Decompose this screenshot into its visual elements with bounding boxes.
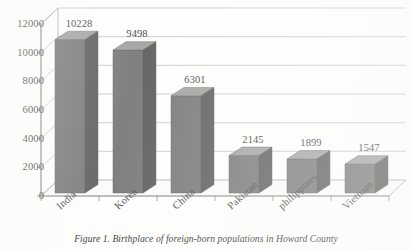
figure-caption: Figure 1. Birthplace of foreign-born pop…: [0, 234, 412, 245]
y-tick-label: 0: [0, 191, 44, 202]
bar-column: [171, 87, 214, 193]
bar-value-label: 9498: [126, 29, 147, 40]
bar-side-face: [85, 31, 98, 193]
bar-side-face: [259, 147, 272, 193]
y-axis-tick-labels: 0 2000 4000 6000 8000 10000 12000: [0, 0, 44, 232]
figure-container: 0 2000 4000 6000 8000 10000 12000 10228 …: [0, 0, 412, 250]
y-tick-label: 2000: [0, 162, 44, 173]
y-tick-label: 10000: [0, 47, 44, 58]
bar-value-label: 1899: [300, 138, 321, 149]
bar-value-label: 2145: [242, 135, 263, 146]
bar-side-face: [201, 87, 214, 193]
y-tick-label: 4000: [0, 133, 44, 144]
bar-value-label: 6301: [184, 75, 205, 86]
y-tick-label: 12000: [0, 19, 44, 30]
bar-value-label: 10228: [66, 19, 93, 30]
y-tick-label: 8000: [0, 76, 44, 87]
bar-front-face: [55, 40, 85, 193]
bar-value-label: 1547: [358, 143, 379, 154]
bar-column: [55, 31, 98, 193]
bar-front-face: [171, 96, 201, 193]
bar-column: [113, 42, 156, 193]
bar-side-face: [143, 42, 156, 193]
bar-chart: 0 2000 4000 6000 8000 10000 12000 10228 …: [0, 0, 412, 232]
y-tick-label: 6000: [0, 105, 44, 116]
bar-front-face: [113, 50, 143, 193]
